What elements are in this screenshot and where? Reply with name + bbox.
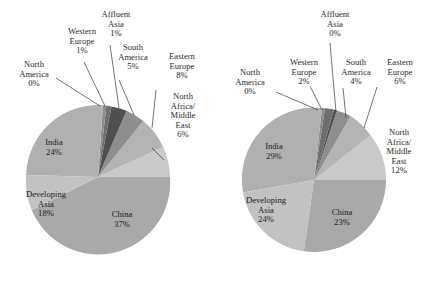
label-north-africa-middle-east: North Africa/ Middle East 6% <box>158 92 208 140</box>
leader-western-europe <box>310 86 322 110</box>
label-india: India 24% <box>30 138 78 157</box>
label-percent: 0% <box>310 29 360 39</box>
label-percent: 1% <box>56 46 108 56</box>
label-text: Middle <box>387 146 412 156</box>
label-percent: 24% <box>30 148 78 158</box>
label-western-europe: Western Europe 2% <box>276 58 332 87</box>
label-text: Europe <box>388 67 413 77</box>
label-percent: 0% <box>224 87 276 97</box>
leader-eastern-europe <box>152 90 156 128</box>
label-text: North <box>389 127 409 137</box>
label-text: America <box>341 67 371 77</box>
pie-chart-pair: North America 0% Western Europe 1% Afflu… <box>0 0 429 285</box>
label-percent: 8% <box>156 71 208 81</box>
label-south-america: South America 5% <box>108 43 158 72</box>
label-north-america: North America 0% <box>224 68 276 97</box>
label-eastern-europe: Eastern Europe 8% <box>156 52 208 81</box>
label-india: India 29% <box>250 142 298 161</box>
label-text: Developing <box>246 195 286 205</box>
label-text: Asia <box>108 19 124 29</box>
leader-western-europe <box>84 62 105 106</box>
label-text: America <box>19 69 49 79</box>
label-percent: 2% <box>276 77 332 87</box>
label-text: Eastern <box>169 51 195 61</box>
label-text: Asia <box>38 199 54 209</box>
label-percent: 24% <box>234 215 298 225</box>
label-percent: 1% <box>92 29 140 39</box>
label-affluent-asia: Affluent Asia 1% <box>92 10 140 39</box>
label-developing-asia: Developing Asia 24% <box>234 196 298 225</box>
label-china: China 37% <box>98 210 146 229</box>
label-text: Middle <box>171 110 196 120</box>
label-text: Developing <box>26 189 66 199</box>
label-developing-asia: Developing Asia 18% <box>14 190 78 219</box>
label-text: America <box>235 77 265 87</box>
label-affluent-asia: Affluent Asia 0% <box>310 10 360 39</box>
label-eastern-europe: Eastern Europe 6% <box>374 58 426 87</box>
label-text: Affluent <box>102 9 131 19</box>
left-pie-slices <box>26 105 170 254</box>
label-text: Africa/ <box>171 101 195 111</box>
leader-north-america <box>276 92 318 110</box>
label-text: North <box>173 91 193 101</box>
label-percent: 4% <box>332 77 380 87</box>
label-percent: 37% <box>98 220 146 230</box>
label-text: East <box>176 120 191 130</box>
leader-eastern-europe <box>364 87 377 128</box>
label-percent: 12% <box>374 166 424 176</box>
right-pie-chart: North America 0% Western Europe 2% Afflu… <box>214 0 429 285</box>
label-text: Western <box>290 57 318 67</box>
label-text: Europe <box>292 67 317 77</box>
label-china: China 23% <box>318 208 366 227</box>
label-text: India <box>265 141 283 151</box>
label-percent: 0% <box>8 79 60 89</box>
label-north-africa-middle-east: North Africa/ Middle East 12% <box>374 128 424 176</box>
label-text: India <box>45 137 63 147</box>
label-text: Asia <box>327 19 343 29</box>
right-pie-slices <box>242 108 386 252</box>
label-text: East <box>392 156 407 166</box>
label-percent: 6% <box>158 130 208 140</box>
label-text: North <box>24 59 44 69</box>
label-text: China <box>112 209 133 219</box>
label-text: Eastern <box>387 57 413 67</box>
label-percent: 29% <box>250 152 298 162</box>
label-percent: 18% <box>14 209 78 219</box>
label-text: Africa/ <box>387 137 411 147</box>
label-south-america: South America 4% <box>332 58 380 87</box>
label-text: China <box>332 207 353 217</box>
label-text: Europe <box>170 61 195 71</box>
label-text: North <box>240 67 260 77</box>
label-percent: 23% <box>318 218 366 228</box>
label-text: South <box>346 57 366 67</box>
label-text: Europe <box>70 36 95 46</box>
label-north-america: North America 0% <box>8 60 60 89</box>
left-pie-chart: North America 0% Western Europe 1% Afflu… <box>0 0 215 285</box>
label-text: Affluent <box>321 9 350 19</box>
label-text: Asia <box>258 205 274 215</box>
label-percent: 5% <box>108 62 158 72</box>
label-text: South <box>123 42 143 52</box>
label-text: America <box>118 52 148 62</box>
label-percent: 6% <box>374 77 426 87</box>
